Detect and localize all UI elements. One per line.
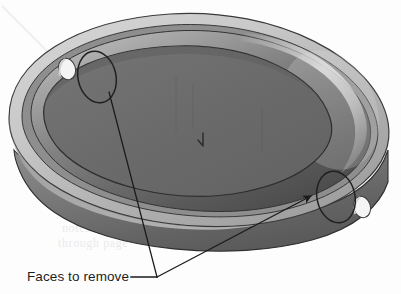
cad-part-body (9, 13, 397, 251)
cad-figure: notes bleed through page (0, 0, 401, 294)
annotation-caption: Faces to remove (27, 269, 129, 284)
cad-figure-canvas: notes bleed through page (0, 0, 401, 294)
ghost-scan-line (2, 6, 48, 52)
